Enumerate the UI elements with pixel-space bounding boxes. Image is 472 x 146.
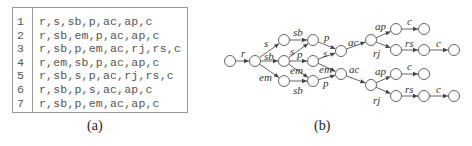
edge-label: s xyxy=(264,37,268,49)
edge-label: rj xyxy=(373,94,380,106)
state-node xyxy=(449,45,460,56)
edge-label: rj xyxy=(373,47,380,59)
state-node xyxy=(308,35,319,46)
state-node xyxy=(279,35,290,46)
state-node xyxy=(391,24,402,35)
edge-label: c xyxy=(436,83,441,95)
edge xyxy=(346,76,365,83)
state-node xyxy=(308,76,319,87)
edge-label: ac xyxy=(348,36,359,48)
edge-label: ap xyxy=(375,20,387,32)
edge-label: ac xyxy=(349,63,360,75)
edge-label: em xyxy=(259,71,272,83)
state-node xyxy=(391,69,402,80)
state-node xyxy=(279,76,290,87)
edge xyxy=(376,76,390,82)
edge-label: em xyxy=(290,64,303,76)
edge xyxy=(376,31,390,37)
state-node xyxy=(225,56,236,67)
state-node xyxy=(449,91,460,102)
edge xyxy=(376,87,390,93)
state-node xyxy=(279,56,290,67)
edge-label: em xyxy=(319,63,332,75)
edge-label: s xyxy=(290,45,294,57)
state-node xyxy=(308,56,319,67)
state-node xyxy=(419,45,430,56)
edge-label: p xyxy=(323,31,330,43)
edge-label: rs xyxy=(405,37,414,49)
state-node xyxy=(336,46,347,57)
edge-label: s xyxy=(323,47,327,59)
state-node xyxy=(250,56,261,67)
edge-label: c xyxy=(407,60,412,72)
state-node xyxy=(391,45,402,56)
edge-label: ap xyxy=(375,65,387,77)
edge-label: rs xyxy=(405,83,414,95)
edge-label: c xyxy=(436,37,441,49)
state-node xyxy=(391,91,402,102)
edge-label: sb xyxy=(293,84,303,96)
edge-label: c xyxy=(407,15,412,27)
edge-label: r xyxy=(241,47,246,59)
state-node xyxy=(366,80,377,91)
edge-label: p xyxy=(322,77,329,89)
state-graph: rssbemsbspemsbpsempacacaprjaprjcrscrscc xyxy=(0,0,472,146)
edge-label: sb xyxy=(293,26,303,38)
state-node xyxy=(419,91,430,102)
state-node xyxy=(419,24,430,35)
edge-label: p xyxy=(296,48,303,60)
state-node xyxy=(366,35,377,46)
state-node xyxy=(336,69,347,80)
edge-label: sb xyxy=(264,50,274,62)
state-node xyxy=(419,69,430,80)
